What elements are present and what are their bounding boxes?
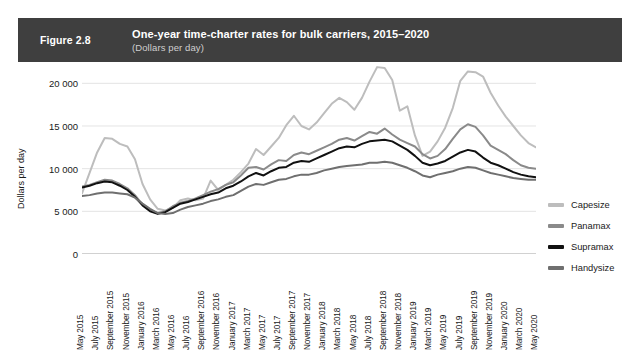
legend-item-supramax[interactable]: Supramax <box>548 236 640 257</box>
legend-item-capesize[interactable]: Capesize <box>548 194 640 215</box>
x-tick-label: November 2019 <box>485 293 494 350</box>
x-tick-label: March 2018 <box>333 308 342 350</box>
x-tick-label: January 2016 <box>137 302 146 350</box>
x-tick-label: March 2019 <box>424 308 433 350</box>
x-tick-label: May 2019 <box>439 315 448 350</box>
legend-item-panamax[interactable]: Panamax <box>548 215 640 236</box>
figure-page: Figure 2.8 One-year time-charter rates f… <box>0 0 640 364</box>
y-axis-ticks: 05 00010 00015 00020 000 <box>24 62 78 364</box>
x-tick-label: January 2018 <box>318 302 327 350</box>
series-line-supramax <box>82 140 536 214</box>
x-tick-label: November 2015 <box>122 293 131 350</box>
x-tick-label: January 2019 <box>409 302 418 350</box>
x-tick-label: January 2017 <box>228 302 237 350</box>
y-tick-label: 10 000 <box>24 163 78 174</box>
x-tick-label: November 2017 <box>303 293 312 350</box>
figure-title: One-year time-charter rates for bulk car… <box>132 27 429 41</box>
y-tick-label: 15 000 <box>24 121 78 132</box>
legend-item-handysize[interactable]: Handysize <box>548 257 640 278</box>
figure-subtitle: (Dollars per day) <box>132 41 429 54</box>
legend-swatch-icon <box>548 224 564 228</box>
x-tick-label: September 2016 <box>197 291 206 350</box>
figure-number: Figure 2.8 <box>40 34 132 46</box>
y-tick-label: 0 <box>24 249 78 260</box>
x-tick-label: September 2019 <box>470 291 479 350</box>
x-tick-label: July 2018 <box>364 316 373 350</box>
x-tick-label: March 2017 <box>243 308 252 350</box>
x-tick-label: July 2016 <box>182 316 191 350</box>
x-tick-label: March 2016 <box>152 308 161 350</box>
line-chart-svg <box>82 62 536 254</box>
x-tick-label: July 2019 <box>455 316 464 350</box>
figure-banner: Figure 2.8 One-year time-charter rates f… <box>18 18 622 62</box>
legend-swatch-icon <box>548 245 564 249</box>
x-tick-label: May 2017 <box>258 315 267 350</box>
y-tick-label: 20 000 <box>24 78 78 89</box>
x-tick-label: September 2018 <box>379 291 388 350</box>
x-tick-label: July 2015 <box>91 316 100 350</box>
x-tick-label: November 2018 <box>394 293 403 350</box>
x-tick-label: January 2020 <box>500 302 509 350</box>
x-tick-label: May 2020 <box>530 315 539 350</box>
figure-banner-texts: One-year time-charter rates for bulk car… <box>132 27 429 54</box>
legend-swatch-icon <box>548 266 564 270</box>
chart-area: Dollars per day 05 00010 00015 00020 000… <box>0 62 640 364</box>
legend-label: Supramax <box>571 242 613 252</box>
x-tick-label: May 2018 <box>349 315 358 350</box>
plot-inner <box>82 62 536 254</box>
x-tick-label: May 2015 <box>76 315 85 350</box>
series-line-handysize <box>82 162 536 214</box>
x-axis-ticks: May 2015July 2015September 2015November … <box>82 254 536 364</box>
x-tick-label: September 2015 <box>106 291 115 350</box>
chart-legend: CapesizePanamaxSupramaxHandysize <box>548 194 640 278</box>
legend-label: Handysize <box>571 263 614 273</box>
y-tick-label: 5 000 <box>24 206 78 217</box>
x-tick-label: November 2016 <box>212 293 221 350</box>
legend-label: Panamax <box>571 221 610 231</box>
x-tick-label: March 2020 <box>515 308 524 350</box>
legend-swatch-icon <box>548 203 564 207</box>
legend-label: Capesize <box>571 200 610 210</box>
x-tick-label: September 2017 <box>288 291 297 350</box>
x-tick-label: May 2016 <box>167 315 176 350</box>
x-tick-label: July 2017 <box>273 316 282 350</box>
series-line-capesize <box>82 67 536 210</box>
